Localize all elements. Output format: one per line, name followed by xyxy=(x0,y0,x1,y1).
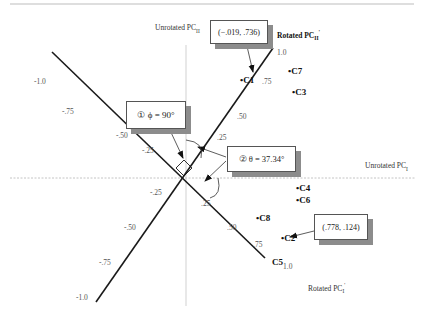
pc2-tick: .50 xyxy=(237,113,246,121)
pc1-tick: .50 xyxy=(227,224,236,232)
pc2-tick: 1.0 xyxy=(277,49,286,57)
rotated-pc1-label: Rotated PCI' xyxy=(308,283,345,295)
rotated-pc2-label: Rotated PCII' xyxy=(277,30,320,42)
theta-leader-1 xyxy=(198,147,226,157)
unrotated-pc1-label: Unrotated PCI xyxy=(365,162,408,172)
phi-symbol: ϕ xyxy=(148,110,153,120)
pc2-tick: -.75 xyxy=(99,259,111,267)
pc2-tick: .75 xyxy=(262,78,271,86)
pc1-tick: -.75 xyxy=(62,108,74,116)
theta-marker: ② xyxy=(239,154,247,164)
phi-leader xyxy=(168,126,183,158)
diagram-lines xyxy=(0,0,426,320)
pc2-tick: -.25 xyxy=(150,189,162,197)
point-c2: •C2 xyxy=(281,234,295,243)
phi-marker: ① xyxy=(137,110,145,120)
c1-coords-callout: (−.019, .736) xyxy=(210,20,268,44)
pc1-tick: -1.0 xyxy=(34,78,46,86)
c1-leader xyxy=(246,42,253,72)
theta-arc-right xyxy=(210,178,219,198)
theta-symbol: θ xyxy=(249,154,253,164)
pc2-tick: -.50 xyxy=(124,224,136,232)
pc2-tick: -1.0 xyxy=(76,294,88,302)
pc1-tick: 1.0 xyxy=(283,263,292,271)
c2-coords-callout: (.778, .124) xyxy=(314,214,368,240)
point-c8: •C8 xyxy=(256,214,270,223)
theta-callout: ② θ = 37.34° xyxy=(227,146,296,172)
pc1-tick: .75 xyxy=(253,241,262,249)
phi-value: = 90° xyxy=(155,110,175,120)
pc1-tick: .25 xyxy=(201,200,210,208)
theta-arc-top xyxy=(186,140,202,158)
pc1-tick: -.50 xyxy=(116,132,128,140)
pc2-tick: .25 xyxy=(217,134,226,142)
theta-value: = 37.34° xyxy=(255,154,284,164)
theta-leader-2 xyxy=(205,161,226,181)
point-c1: •C1 xyxy=(240,76,254,85)
rotation-diagram: Unrotated PCII Unrotated PCI Rotated PCI… xyxy=(0,0,426,320)
point-c4: •C4 xyxy=(296,184,310,193)
phi-callout: ① ϕ = 90° xyxy=(126,101,186,129)
point-c6: •C6 xyxy=(296,196,310,205)
point-c3: •C3 xyxy=(292,88,306,97)
unrotated-pc2-label: Unrotated PCII xyxy=(155,24,200,34)
pc1-tick: -.25 xyxy=(142,147,154,155)
point-c7: •C7 xyxy=(288,67,302,76)
point-c5: C5 xyxy=(272,258,283,267)
